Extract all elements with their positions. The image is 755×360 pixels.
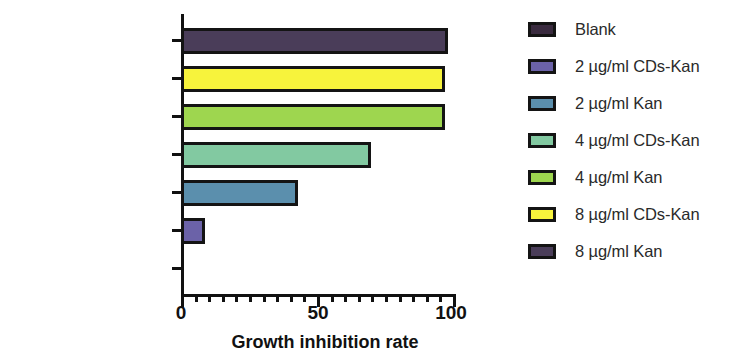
- x-tick-85: [412, 294, 415, 302]
- legend-item-6[interactable]: 8 µg/ml Kan: [528, 240, 662, 262]
- y-tick-row0: [172, 39, 181, 42]
- bar-4: [181, 180, 298, 206]
- x-tick-45: [303, 294, 306, 302]
- legend-swatch-icon-0: [528, 22, 556, 37]
- x-tick-65: [358, 294, 361, 302]
- legend-swatch-icon-4: [528, 170, 556, 185]
- legend-item-2[interactable]: 2 µg/ml Kan: [528, 92, 662, 114]
- bar-1: [181, 66, 445, 92]
- x-tick-20: [235, 294, 238, 302]
- legend-label-4: 4 µg/ml Kan: [575, 168, 662, 187]
- legend-item-0[interactable]: Blank: [528, 18, 616, 40]
- legend-item-1[interactable]: 2 µg/ml CDs-Kan: [528, 55, 699, 77]
- legend-label-1: 2 µg/ml CDs-Kan: [575, 57, 699, 76]
- legend-label-3: 4 µg/ml CDs-Kan: [575, 131, 699, 150]
- legend-label-2: 2 µg/ml Kan: [575, 94, 662, 113]
- legend-item-4[interactable]: 4 µg/ml Kan: [528, 166, 662, 188]
- x-tick-label-50: 50: [302, 303, 334, 322]
- y-tick-row4: [172, 191, 181, 194]
- x-tick-40: [290, 294, 293, 302]
- bar-chart-figure: 8 µg/ml Kan 8 µg/ml CDs-Kan 4 µg/ml Kan …: [0, 0, 755, 360]
- x-tick-15: [222, 294, 225, 302]
- x-tick-label-100: 100: [429, 303, 473, 322]
- x-tick-80: [399, 294, 402, 302]
- bar-2: [181, 104, 445, 130]
- legend-label-0: Blank: [575, 20, 616, 39]
- x-tick-55: [331, 294, 334, 302]
- legend-item-3[interactable]: 4 µg/ml CDs-Kan: [528, 129, 699, 151]
- y-tick-row2: [172, 115, 181, 118]
- x-tick-label-0: 0: [168, 303, 194, 322]
- x-axis-title: Growth inhibition rate: [185, 333, 465, 351]
- legend-swatch-icon-5: [528, 207, 556, 222]
- x-tick-95: [439, 294, 442, 302]
- x-tick-25: [249, 294, 252, 302]
- legend-item-5[interactable]: 8 µg/ml CDs-Kan: [528, 203, 699, 225]
- x-tick-5: [195, 294, 198, 302]
- bar-5: [181, 218, 205, 244]
- x-tick-75: [385, 294, 388, 302]
- y-tick-row6: [172, 267, 181, 270]
- x-tick-30: [263, 294, 266, 302]
- x-tick-10: [208, 294, 211, 302]
- x-tick-70: [371, 294, 374, 302]
- legend-swatch-icon-3: [528, 133, 556, 148]
- x-tick-90: [426, 294, 429, 302]
- legend-label-5: 8 µg/ml CDs-Kan: [575, 205, 699, 224]
- y-tick-row5: [172, 229, 181, 232]
- legend-swatch-icon-2: [528, 96, 556, 111]
- plot-area: 8 µg/ml Kan 8 µg/ml CDs-Kan 4 µg/ml Kan …: [0, 0, 500, 360]
- y-tick-row1: [172, 77, 181, 80]
- x-tick-60: [344, 294, 347, 302]
- bar-0: [181, 28, 448, 54]
- x-tick-35: [276, 294, 279, 302]
- legend-swatch-icon-1: [528, 59, 556, 74]
- y-tick-row3: [172, 153, 181, 156]
- legend-label-6: 8 µg/ml Kan: [575, 242, 662, 261]
- bar-3: [181, 142, 371, 168]
- legend-swatch-icon-6: [528, 244, 556, 259]
